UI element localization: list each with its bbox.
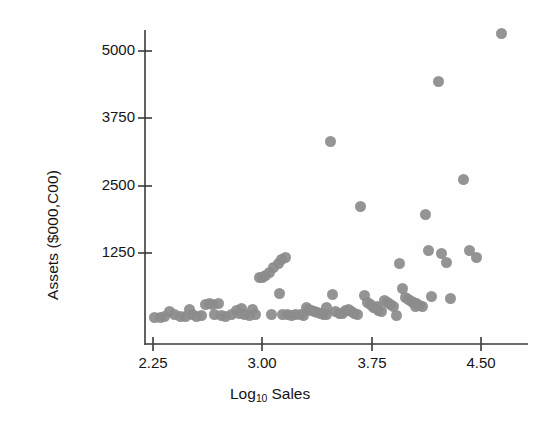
data-point [355,201,366,212]
x-axis-label-subscript: 10 [256,392,267,404]
data-point [213,298,224,309]
data-point [420,209,431,220]
data-point [391,310,402,321]
y-tick-label: 2500 [73,176,135,193]
data-point [250,309,261,320]
data-point [433,76,444,87]
data-point [458,174,469,185]
data-point [410,301,421,312]
x-tick-label: 2.25 [124,354,182,371]
x-axis-label-rest: Sales [267,385,310,402]
data-point [426,291,437,302]
x-tick-label: 4.50 [452,354,510,371]
scatter-plot-figure: Assets ($000,C00) 1250250037505000 2.253… [0,0,544,423]
data-point [496,28,507,39]
y-tick-label: 3750 [73,108,135,125]
data-point [445,293,456,304]
x-tick-label: 3.00 [233,354,291,371]
data-point [196,310,207,321]
data-point [266,309,277,320]
data-point [471,252,482,263]
data-point [352,309,363,320]
y-tick-label: 1250 [73,243,135,260]
data-point [325,136,336,147]
x-axis-label-base: Log [230,385,256,402]
data-point [394,258,405,269]
data-point [274,288,285,299]
x-tick-label: 3.75 [343,354,401,371]
y-axis-label: Assets ($000,C00) [44,0,70,300]
y-tick-label: 5000 [73,41,135,58]
data-point [441,257,452,268]
data-point [327,289,338,300]
data-point [280,252,291,263]
x-axis-label: Log10 Sales [230,385,310,403]
data-point [372,301,383,312]
data-point [423,245,434,256]
data-point [159,311,170,322]
